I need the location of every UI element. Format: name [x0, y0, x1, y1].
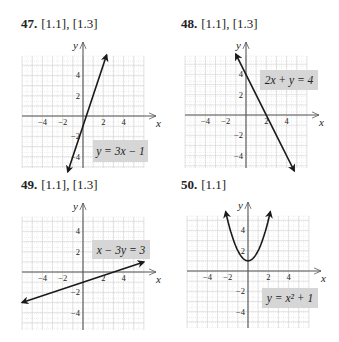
x-axis-label: x	[320, 272, 326, 284]
graph-y-equals-x-squared-plus-1: xy−4−22442−2−4y = x² + 1	[0, 0, 339, 342]
equation-label: y = x² + 1	[262, 288, 318, 308]
axes: xy	[187, 199, 326, 328]
x-tick-label: 2	[266, 272, 270, 282]
svg-text:y = x² + 1: y = x² + 1	[266, 292, 313, 305]
y-axis-label: y	[237, 199, 243, 211]
x-tick-label: 4	[286, 272, 291, 282]
y-tick-label: 2	[241, 246, 245, 256]
y-tick-label: −4	[236, 307, 246, 317]
x-tick-label: −4	[203, 272, 213, 282]
x-tick-label: −2	[223, 272, 232, 282]
y-tick-label: −2	[236, 286, 245, 296]
